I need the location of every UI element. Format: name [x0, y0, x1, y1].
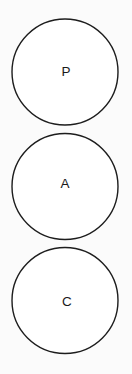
node-a-group[interactable]: A [12, 134, 118, 240]
circle-a-label: A [60, 176, 69, 191]
node-p-group[interactable]: P [12, 19, 118, 125]
circle-c-label: C [62, 294, 72, 309]
diagram-canvas: P A C [0, 0, 132, 374]
node-c-group[interactable]: C [12, 248, 118, 354]
circle-stack-svg: P A C [0, 0, 132, 374]
circle-p-label: P [61, 64, 70, 79]
